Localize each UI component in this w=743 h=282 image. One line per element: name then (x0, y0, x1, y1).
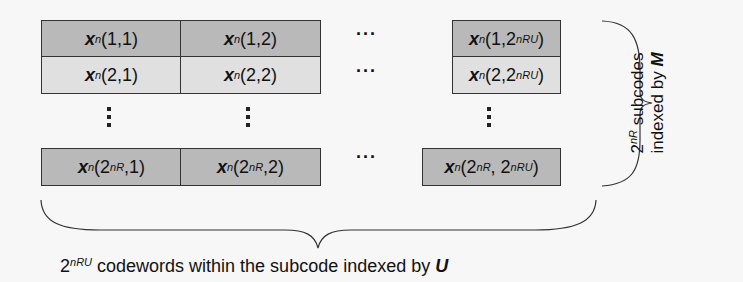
right-label: 2nR subcodes indexed by M (628, 52, 668, 153)
bottom-brace-icon (41, 200, 596, 248)
bottom-label: 2nRU codewords within the subcode indexe… (60, 256, 448, 277)
